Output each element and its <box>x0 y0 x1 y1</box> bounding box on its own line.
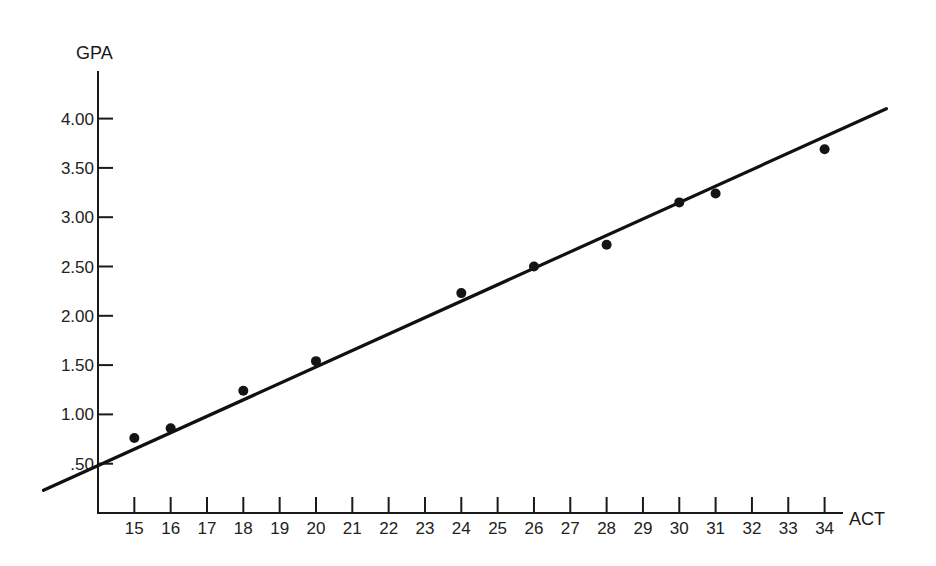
data-point <box>820 144 830 154</box>
y-tick-label: 1.00 <box>61 405 94 424</box>
data-point <box>129 433 139 443</box>
y-axis-label: GPA <box>76 43 113 63</box>
x-tick-label: 20 <box>307 519 326 538</box>
data-point <box>711 189 721 199</box>
x-axis-label: ACT <box>849 509 885 529</box>
y-tick-label: 2.50 <box>61 258 94 277</box>
data-point <box>238 386 248 396</box>
x-tick-label: 24 <box>452 519 471 538</box>
y-tick-label: 1.50 <box>61 356 94 375</box>
y-tick-label: 3.50 <box>61 159 94 178</box>
y-tick-label: 2.00 <box>61 307 94 326</box>
y-tick-label: 3.00 <box>61 208 94 227</box>
x-tick-label: 16 <box>161 519 180 538</box>
x-tick-label: 22 <box>379 519 398 538</box>
x-tick-label: 28 <box>597 519 616 538</box>
x-ticks: 1516171819202122232425262728293031323334 <box>125 497 834 538</box>
y-ticks: .501.001.502.002.503.003.504.00 <box>61 110 113 474</box>
x-tick-label: 23 <box>416 519 435 538</box>
x-tick-label: 18 <box>234 519 253 538</box>
x-tick-label: 29 <box>633 519 652 538</box>
x-tick-label: 27 <box>561 519 580 538</box>
data-point <box>311 356 321 366</box>
data-point <box>602 240 612 250</box>
data-point <box>456 288 466 298</box>
data-point <box>674 197 684 207</box>
x-tick-label: 17 <box>198 519 217 538</box>
x-tick-label: 30 <box>670 519 689 538</box>
x-tick-label: 25 <box>488 519 507 538</box>
x-tick-label: 31 <box>706 519 725 538</box>
x-tick-label: 34 <box>815 519 834 538</box>
x-tick-label: 21 <box>343 519 362 538</box>
x-tick-label: 19 <box>270 519 289 538</box>
gpa-vs-act-chart: GPA ACT .501.001.502.002.503.003.504.00 … <box>0 0 936 566</box>
data-point <box>529 262 539 272</box>
data-point <box>166 423 176 433</box>
x-tick-label: 33 <box>779 519 798 538</box>
x-tick-label: 26 <box>524 519 543 538</box>
y-tick-label: .50 <box>70 455 94 474</box>
y-tick-label: 4.00 <box>61 110 94 129</box>
x-tick-label: 15 <box>125 519 144 538</box>
x-tick-label: 32 <box>742 519 761 538</box>
